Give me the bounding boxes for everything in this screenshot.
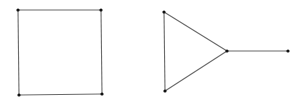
vertex — [99, 8, 102, 11]
edge — [19, 94, 102, 95]
vertex — [162, 10, 165, 13]
edge — [164, 12, 227, 51]
vertex — [286, 49, 289, 52]
vertex — [225, 49, 228, 52]
vertex — [17, 93, 20, 96]
graph-diagram — [0, 0, 306, 106]
square-graph — [16, 8, 103, 96]
vertex — [163, 89, 166, 92]
edge — [164, 12, 165, 91]
triangle-with-tail-graph — [162, 10, 289, 92]
edge — [165, 51, 227, 91]
vertex — [16, 8, 19, 11]
edge — [101, 10, 102, 94]
vertex — [100, 92, 103, 95]
edge — [18, 10, 19, 95]
